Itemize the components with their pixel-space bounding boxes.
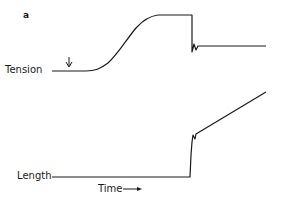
stimulus-arrow-icon (66, 57, 72, 67)
tension-trace (52, 15, 266, 71)
traces-plot (0, 0, 284, 202)
length-trace (52, 92, 266, 177)
time-arrow-icon (123, 187, 142, 191)
